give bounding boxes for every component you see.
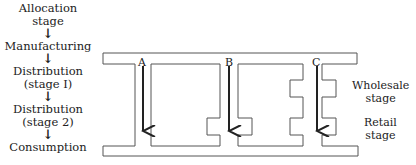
channel-a-label: A [138, 56, 146, 69]
channel-b-label: B [225, 56, 233, 69]
channel-c-label: C [312, 56, 320, 69]
wholesale-stage-label: Wholesale stage [352, 79, 409, 105]
retail-stage-label: Retail stage [364, 116, 397, 142]
